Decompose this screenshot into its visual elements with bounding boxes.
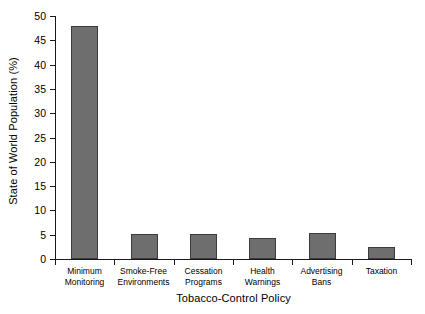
bar: [131, 234, 158, 259]
x-axis-tick: [411, 260, 412, 265]
y-axis-tick-label: 15: [22, 181, 46, 191]
x-axis-tick-label-line: Bans: [292, 277, 351, 288]
x-axis-tick: [55, 260, 56, 265]
x-axis-tick-label: AdvertisingBans: [292, 266, 351, 287]
y-axis-tick: [50, 210, 55, 211]
y-axis-tick: [50, 162, 55, 163]
bar: [249, 238, 276, 259]
x-axis-tick-label-line: Taxation: [352, 266, 411, 277]
y-axis-tick: [50, 235, 55, 236]
x-axis-tick-label: Taxation: [352, 266, 411, 277]
x-axis-tick: [174, 260, 175, 265]
x-axis-tick: [352, 260, 353, 265]
bar: [190, 234, 217, 259]
y-axis-tick: [50, 40, 55, 41]
y-axis-tick-label: 35: [22, 84, 46, 94]
x-axis-tick-label: Smoke-FreeEnvironments: [114, 266, 173, 287]
bar-chart-figure: State of World Population (%) 0510152025…: [0, 0, 425, 314]
y-axis-tick-label: 50: [22, 11, 46, 21]
bar: [309, 233, 336, 259]
x-axis-tick-label-line: Environments: [114, 277, 173, 288]
x-axis-tick-label-line: Health Warnings: [233, 266, 292, 287]
x-axis-tick-label-line: Programs: [174, 277, 233, 288]
x-axis-tick: [233, 260, 234, 265]
x-axis-tick-label: MinimumMonitoring: [55, 266, 114, 287]
x-axis-tick-label-line: Minimum: [55, 266, 114, 277]
y-axis-line: [55, 16, 56, 260]
y-axis-tick-label: 5: [22, 230, 46, 240]
y-axis-tick-label: 20: [22, 157, 46, 167]
x-axis-tick-label: CessationPrograms: [174, 266, 233, 287]
x-axis-tick-label-line: Monitoring: [55, 277, 114, 288]
y-axis-tick-label: 10: [22, 205, 46, 215]
y-axis-tick-label: 40: [22, 60, 46, 70]
x-axis-tick-label-line: Smoke-Free: [114, 266, 173, 277]
y-axis-tick: [50, 65, 55, 66]
bar: [368, 247, 395, 259]
y-axis-tick: [50, 186, 55, 187]
y-axis-tick: [50, 16, 55, 17]
y-axis-title: State of World Population (%): [4, 1, 22, 261]
x-axis-title: Tobacco-Control Policy: [55, 292, 412, 305]
bar: [71, 26, 98, 259]
y-axis-tick: [50, 113, 55, 114]
x-axis-tick: [292, 260, 293, 265]
y-axis-tick: [50, 89, 55, 90]
x-axis-tick-label-line: Advertising: [292, 266, 351, 277]
y-axis-tick: [50, 138, 55, 139]
x-axis-tick-label-line: Cessation: [174, 266, 233, 277]
x-axis-tick: [114, 260, 115, 265]
x-axis-tick-label: Health Warnings: [233, 266, 292, 287]
y-axis-tick-label: 45: [22, 35, 46, 45]
y-axis-tick-label: 25: [22, 133, 46, 143]
y-axis-tick-label: 0: [22, 254, 46, 264]
y-axis-tick-label: 30: [22, 108, 46, 118]
